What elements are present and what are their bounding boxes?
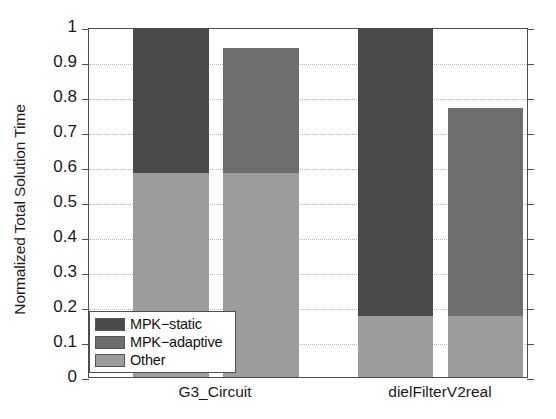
legend-swatch-other: [95, 354, 125, 367]
y-axis-tick-right: [527, 204, 534, 205]
y-axis-tick-right: [527, 64, 534, 65]
y-axis-title: Normalized Total Solution Time: [0, 0, 40, 419]
legend-label-mpk-adaptive: MPK−adaptive: [130, 334, 222, 350]
bar-segment: [133, 29, 209, 173]
y-axis-tick: [82, 309, 89, 310]
legend-swatch-mpk-static: [95, 318, 125, 331]
y-axis-tick-right: [527, 134, 534, 135]
x-axis-tick-label: G3_Circuit: [115, 383, 315, 401]
legend-label-mpk-static: MPK−static: [130, 316, 202, 332]
y-axis-tick-label: 0.3: [53, 262, 77, 282]
y-axis-tick-right: [527, 274, 534, 275]
y-axis-tick: [82, 204, 89, 205]
bar-segment: [223, 48, 299, 172]
legend-item-mpk-adaptive: MPK−adaptive: [95, 333, 235, 351]
y-axis-tick-right: [527, 99, 534, 100]
y-axis-tick: [82, 99, 89, 100]
y-axis-tick-label: 1: [68, 17, 77, 37]
bar-segment: [448, 316, 523, 377]
y-axis-tick-label: 0.2: [53, 297, 77, 317]
bar-segment: [448, 108, 523, 316]
y-axis-tick-label: 0.5: [53, 192, 77, 212]
y-axis-tick: [82, 344, 89, 345]
y-axis-tick-label: 0.4: [53, 227, 77, 247]
y-axis-tick-right: [527, 379, 534, 380]
chart-figure: Normalized Total Solution Time MPK−stati…: [0, 0, 556, 419]
y-axis-tick-right: [527, 239, 534, 240]
y-axis-tick-right: [527, 169, 534, 170]
y-axis-tick-label: 0.6: [53, 157, 77, 177]
legend-swatch-mpk-adaptive: [95, 336, 125, 349]
y-axis-tick: [82, 169, 89, 170]
y-axis-tick-label: 0.8: [53, 87, 77, 107]
y-axis-tick: [82, 134, 89, 135]
y-axis-tick-label: 0: [68, 367, 77, 387]
y-axis-tick-label: 0.7: [53, 122, 77, 142]
y-axis-tick: [82, 379, 89, 380]
legend-label-other: Other: [130, 352, 165, 368]
y-axis-tick-label: 0.9: [53, 52, 77, 72]
y-axis-tick: [82, 239, 89, 240]
bar-segment: [358, 29, 433, 316]
bar-segment: [358, 316, 433, 377]
legend-item-other: Other: [95, 351, 235, 369]
y-axis-tick-label: 0.1: [53, 332, 77, 352]
y-axis-tick-right: [527, 29, 534, 30]
x-axis-tick-label: dielFilterV2real: [340, 383, 540, 401]
y-axis-tick: [82, 64, 89, 65]
y-axis-tick-right: [527, 309, 534, 310]
chart-legend: MPK−static MPK−adaptive Other: [89, 311, 236, 373]
y-axis-tick-right: [527, 344, 534, 345]
y-axis-tick: [82, 274, 89, 275]
legend-item-mpk-static: MPK−static: [95, 315, 235, 333]
y-axis-tick: [82, 29, 89, 30]
